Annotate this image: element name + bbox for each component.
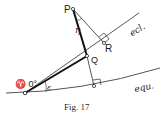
label-epsilon: ε: [47, 83, 51, 92]
diagram-figure: P R Q ♈ 0° η ε ecl. equ. Fig. 17: [0, 0, 164, 116]
point-vernal-equinox: [23, 91, 27, 95]
label-q: Q: [91, 55, 98, 65]
label-r: R: [105, 43, 112, 54]
point-equator-foot: [92, 84, 95, 87]
label-vernal-equinox: ♈ 0°: [15, 78, 38, 89]
figure-caption: Fig. 17: [64, 102, 90, 112]
label-equator: equ.: [133, 80, 155, 94]
point-q: [85, 54, 88, 57]
point-p: [71, 7, 74, 10]
ecliptic-line: [25, 13, 139, 93]
label-ecliptic: ecl.: [128, 21, 147, 38]
label-eta: η: [75, 25, 81, 35]
label-p: P: [64, 4, 71, 15]
